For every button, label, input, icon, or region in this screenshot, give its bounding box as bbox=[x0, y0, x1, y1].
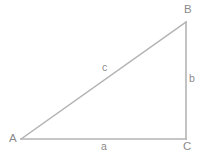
side-c-line bbox=[21, 22, 186, 139]
triangle-diagram-canvas: A B C a b c bbox=[0, 0, 204, 157]
vertex-label-b: B bbox=[184, 4, 192, 15]
vertex-label-a: A bbox=[9, 133, 17, 144]
vertex-label-c: C bbox=[183, 141, 191, 152]
triangle-figure bbox=[0, 0, 204, 157]
side-label-a: a bbox=[101, 141, 107, 152]
side-label-b: b bbox=[189, 73, 195, 84]
side-label-c: c bbox=[102, 62, 107, 73]
